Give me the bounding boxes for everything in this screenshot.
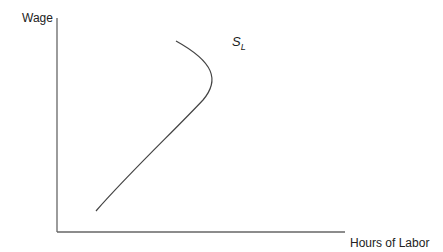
curve-label-main: S (232, 34, 241, 49)
labor-supply-curve (96, 41, 212, 211)
y-axis-label: Wage (22, 11, 53, 25)
curve-label-subscript: L (241, 42, 246, 52)
chart-canvas (0, 0, 443, 252)
x-axis-label: Hours of Labor (350, 236, 429, 250)
curve-label: SL (232, 34, 246, 52)
